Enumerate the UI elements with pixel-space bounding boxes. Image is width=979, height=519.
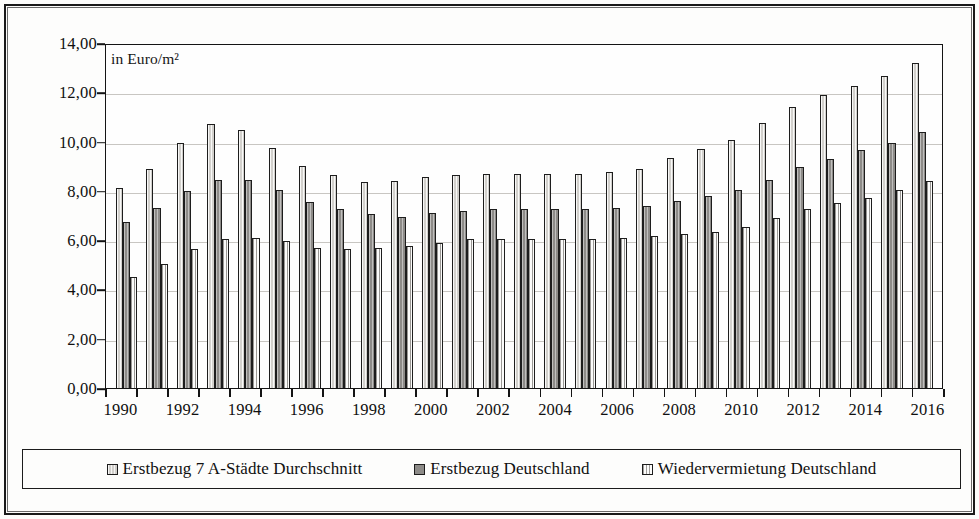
bar bbox=[789, 107, 796, 388]
y-axis-tick-mark bbox=[97, 240, 105, 242]
x-axis-tick-label: 2002 bbox=[476, 400, 510, 420]
x-axis-tick-mark bbox=[540, 389, 542, 397]
bar bbox=[881, 76, 888, 388]
bar bbox=[460, 211, 467, 388]
x-axis-tick-label: 1996 bbox=[290, 400, 324, 420]
bar bbox=[514, 174, 521, 388]
x-axis-tick-mark bbox=[384, 389, 386, 397]
x-axis-tick-mark bbox=[757, 389, 759, 397]
chart-page: 14,0012,0010,008,006,004,002,000,00 in E… bbox=[0, 0, 979, 519]
bar bbox=[636, 169, 643, 388]
bar bbox=[306, 202, 313, 388]
x-axis-tick-label: 2016 bbox=[911, 400, 945, 420]
bar-group bbox=[387, 45, 418, 388]
x-axis-tick-label: 1998 bbox=[352, 400, 386, 420]
bar-group bbox=[295, 45, 326, 388]
bar bbox=[735, 190, 742, 388]
legend-item[interactable]: Erstbezug Deutschland bbox=[414, 459, 589, 479]
bar bbox=[123, 222, 130, 388]
bar-group bbox=[142, 45, 173, 388]
bar-group bbox=[111, 45, 142, 388]
bar bbox=[153, 208, 160, 388]
bar bbox=[896, 190, 903, 388]
y-axis-tick-label: 4,00 bbox=[27, 280, 97, 300]
x-axis-tick-mark bbox=[167, 389, 169, 397]
x-axis-tick-mark bbox=[477, 389, 479, 397]
bar bbox=[651, 236, 658, 388]
x-axis-tick-mark bbox=[726, 389, 728, 397]
bar bbox=[919, 132, 926, 388]
legend-swatch-icon bbox=[107, 464, 118, 475]
bar-group bbox=[693, 45, 724, 388]
bar bbox=[222, 239, 229, 388]
bar bbox=[497, 239, 504, 388]
bar bbox=[344, 249, 351, 388]
x-axis-tick-mark bbox=[943, 389, 945, 397]
bar bbox=[146, 169, 153, 388]
x-axis-tick-label: 2000 bbox=[414, 400, 448, 420]
bar bbox=[161, 264, 168, 388]
bar bbox=[559, 239, 566, 388]
y-axis-tick-mark bbox=[97, 92, 105, 94]
bar-group bbox=[509, 45, 540, 388]
bar bbox=[834, 203, 841, 388]
chart-region: 14,0012,0010,008,006,004,002,000,00 in E… bbox=[20, 20, 965, 440]
bar bbox=[667, 158, 674, 388]
bar bbox=[191, 249, 198, 388]
bar-group bbox=[264, 45, 295, 388]
x-axis-tick-mark bbox=[664, 389, 666, 397]
legend-item[interactable]: Erstbezug 7 A-Städte Durchschnitt bbox=[107, 459, 363, 479]
bar bbox=[314, 248, 321, 388]
x-axis-tick-mark bbox=[912, 389, 914, 397]
bar bbox=[398, 217, 405, 388]
bar bbox=[606, 172, 613, 388]
x-axis-tick-mark bbox=[353, 389, 355, 397]
legend-item[interactable]: Wiedervermietung Deutschland bbox=[642, 459, 877, 479]
y-axis-tick-mark bbox=[97, 290, 105, 292]
bar bbox=[766, 180, 773, 388]
bar-group bbox=[785, 45, 816, 388]
bar bbox=[858, 150, 865, 388]
x-axis-tick-label: 2006 bbox=[600, 400, 634, 420]
bar bbox=[796, 167, 803, 388]
x-axis-tick-mark bbox=[788, 389, 790, 397]
unit-annotation: in Euro/m² bbox=[111, 50, 179, 68]
bar bbox=[207, 124, 214, 388]
bar bbox=[613, 208, 620, 388]
x-axis-tick-mark bbox=[446, 389, 448, 397]
bar bbox=[589, 239, 596, 388]
bar-group bbox=[877, 45, 908, 388]
bar-group bbox=[356, 45, 387, 388]
x-axis-tick-mark bbox=[105, 389, 107, 397]
x-axis-tick-mark bbox=[136, 389, 138, 397]
x-axis-labels: 1990199219941996199820002002200420062008… bbox=[105, 400, 943, 430]
bar bbox=[429, 213, 436, 388]
bar bbox=[177, 143, 184, 388]
bar bbox=[283, 241, 290, 388]
bar bbox=[865, 198, 872, 388]
bar-group bbox=[754, 45, 785, 388]
bar-group bbox=[601, 45, 632, 388]
bar bbox=[827, 159, 834, 388]
bar bbox=[820, 95, 827, 388]
bar bbox=[712, 232, 719, 388]
x-axis-tick-mark bbox=[602, 389, 604, 397]
chart-legend: Erstbezug 7 A-Städte DurchschnittErstbez… bbox=[22, 449, 961, 489]
legend-item-label: Erstbezug 7 A-Städte Durchschnitt bbox=[123, 459, 363, 479]
bar bbox=[490, 209, 497, 388]
y-axis-tick-label: 8,00 bbox=[27, 182, 97, 202]
x-axis-tick-mark bbox=[322, 389, 324, 397]
x-axis-tick-label: 1990 bbox=[104, 400, 138, 420]
bar bbox=[804, 209, 811, 388]
bar-group bbox=[815, 45, 846, 388]
bar bbox=[330, 175, 337, 388]
x-axis-tick-label: 2004 bbox=[538, 400, 572, 420]
bar bbox=[483, 174, 490, 388]
y-axis-tick-mark bbox=[97, 191, 105, 193]
bar bbox=[436, 243, 443, 388]
x-axis-ticks bbox=[105, 389, 943, 398]
bar bbox=[912, 63, 919, 388]
bar bbox=[728, 140, 735, 388]
bar bbox=[245, 180, 252, 388]
bar bbox=[361, 182, 368, 388]
